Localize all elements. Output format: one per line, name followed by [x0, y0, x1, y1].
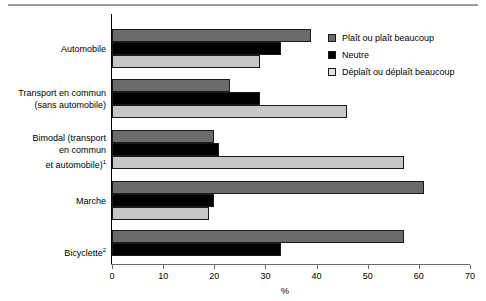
bar	[112, 181, 424, 194]
legend-label: Déplaît ou déplaît beaucoup	[342, 67, 455, 77]
category-label-line: Marche	[76, 195, 106, 207]
x-axis-tick-label: 60	[414, 271, 424, 281]
bar	[112, 230, 404, 243]
x-axis-tick-label: 0	[109, 271, 114, 281]
bar	[112, 207, 209, 220]
x-axis-tick	[265, 265, 266, 269]
legend-label: Plaît ou plaît beaucoup	[342, 33, 434, 43]
category-label-line: en commun	[32, 144, 106, 156]
bar	[112, 79, 230, 92]
bar	[112, 105, 347, 118]
y-axis-category-label: Marche	[76, 195, 106, 207]
chart-legend: Plaît ou plaît beaucoupNeutreDéplaît ou …	[328, 30, 455, 81]
x-axis-tick-label: 40	[312, 271, 322, 281]
legend-label: Neutre	[342, 50, 369, 60]
bar	[112, 29, 311, 42]
x-axis-tick	[112, 265, 113, 269]
legend-item: Neutre	[328, 47, 455, 62]
bar	[112, 130, 214, 143]
category-label-line: (sans automobile)	[18, 99, 106, 111]
category-label-line: Automobile	[61, 43, 106, 55]
x-axis-tick	[419, 265, 420, 269]
bar	[112, 143, 219, 156]
x-axis-tick	[214, 265, 215, 269]
bar-chart: 010203040506070 AutomobileTransport en c…	[0, 0, 486, 301]
x-axis-line	[111, 264, 470, 265]
x-axis-tick	[470, 265, 471, 269]
category-label-line: et automobile)1	[32, 156, 106, 171]
x-axis-tick	[163, 265, 164, 269]
legend-item: Déplaît ou déplaît beaucoup	[328, 64, 455, 79]
y-axis-category-label: Bimodal (transporten communet automobile…	[32, 132, 106, 171]
y-axis-category-label: Transport en commun(sans automobile)	[18, 87, 106, 111]
legend-swatch-icon	[328, 68, 336, 76]
bar	[112, 55, 260, 68]
footnote-marker: 1	[103, 159, 106, 165]
bar	[112, 92, 260, 105]
x-axis-tick-label: 70	[465, 271, 475, 281]
category-label-line: Transport en commun	[18, 87, 106, 99]
bar	[112, 243, 281, 256]
footnote-marker: 2	[103, 247, 106, 253]
bar	[112, 194, 214, 207]
legend-swatch-icon	[328, 51, 336, 59]
category-label-line: Bicyclette2	[64, 244, 106, 259]
x-axis-tick-label: 50	[363, 271, 373, 281]
bar	[112, 156, 404, 169]
x-axis-tick	[317, 265, 318, 269]
category-label-line: Bimodal (transport	[32, 132, 106, 144]
x-axis-title: %	[281, 286, 289, 296]
y-axis-category-label: Automobile	[61, 43, 106, 55]
x-axis-tick-label: 30	[260, 271, 270, 281]
y-axis-category-label: Bicyclette2	[64, 244, 106, 259]
bar	[112, 42, 281, 55]
x-axis-tick-label: 20	[209, 271, 219, 281]
legend-item: Plaît ou plaît beaucoup	[328, 30, 455, 45]
x-axis-tick	[368, 265, 369, 269]
x-axis-tick-label: 10	[158, 271, 168, 281]
legend-swatch-icon	[328, 34, 336, 42]
